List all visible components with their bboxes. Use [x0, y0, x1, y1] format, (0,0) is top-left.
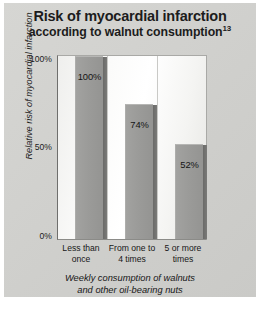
bar-shadow [153, 105, 157, 239]
y-tick-label-0: 0% [18, 231, 52, 241]
bar-one-to-four-times: 74% [125, 104, 153, 239]
bar-shadow [203, 145, 207, 239]
chart-figure: Risk of myocardial infarction according … [4, 3, 256, 297]
column-divider-2 [157, 56, 158, 239]
bar-value-label-2: 52% [176, 159, 203, 170]
plot-area: 100% 74% 52% [57, 55, 207, 240]
x-label-line-1: From one to [106, 243, 158, 254]
x-label-five-or-more-times: 5 or more times [157, 243, 209, 264]
x-label-line-1: 5 or more [157, 243, 209, 254]
x-label-less-than-once: Less than once [55, 243, 107, 264]
footnote-superscript: 13 [222, 24, 231, 33]
bar-value-label-1: 74% [126, 119, 153, 130]
x-label-line-2: once [55, 254, 107, 265]
column-divider-1 [107, 56, 108, 239]
x-label-one-to-four-times: From one to 4 times [106, 243, 158, 264]
bar-shadow [103, 57, 107, 239]
x-label-line-1: Less than [55, 243, 107, 254]
x-axis-caption-line-1: Weekly consumption of walnuts [4, 273, 256, 285]
bar-less-than-once: 100% [75, 56, 103, 239]
chart-title-line-2-text: according to walnut consumption [29, 25, 223, 39]
x-axis-category-labels: Less than once From one to 4 times 5 or … [57, 243, 209, 271]
x-axis-caption: Weekly consumption of walnuts and other … [4, 273, 256, 296]
y-axis-ticks: 100% 50% 0% [14, 3, 52, 297]
y-tick-label-100: 100% [18, 54, 52, 64]
bar-value-label-0: 100% [76, 71, 103, 82]
x-label-line-2: times [157, 254, 209, 265]
y-tick-label-50: 50% [18, 142, 52, 152]
x-axis-caption-line-2: and other oil-bearing nuts [4, 285, 256, 297]
x-label-line-2: 4 times [106, 254, 158, 265]
bar-five-or-more-times: 52% [175, 144, 203, 239]
